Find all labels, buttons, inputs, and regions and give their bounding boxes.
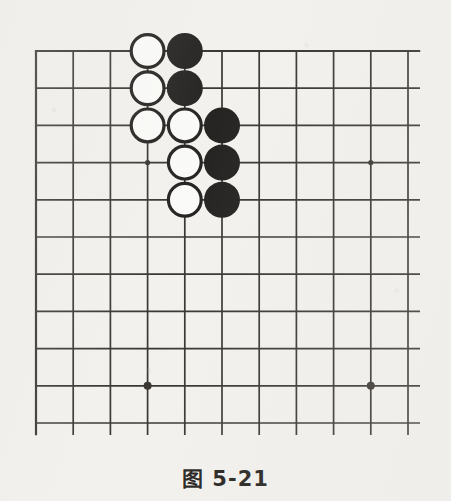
star-point — [367, 382, 375, 390]
white-stone[interactable] — [168, 183, 201, 216]
figure-root: 图 5-21 — [0, 0, 451, 501]
white-stone[interactable] — [131, 109, 164, 142]
figure-caption: 图 5-21 — [0, 462, 451, 492]
black-stone[interactable] — [204, 145, 240, 181]
white-stone[interactable] — [168, 146, 201, 179]
go-board-canvas[interactable] — [0, 0, 451, 455]
white-stone[interactable] — [131, 35, 164, 68]
white-stone[interactable] — [131, 72, 164, 105]
black-stone[interactable] — [167, 33, 203, 69]
go-board[interactable] — [0, 0, 451, 455]
star-point — [144, 382, 152, 390]
black-stone[interactable] — [204, 107, 240, 143]
star-point — [368, 160, 373, 165]
star-point — [145, 160, 150, 165]
white-stone[interactable] — [168, 109, 201, 142]
black-stone[interactable] — [204, 182, 240, 218]
black-stone[interactable] — [167, 70, 203, 106]
